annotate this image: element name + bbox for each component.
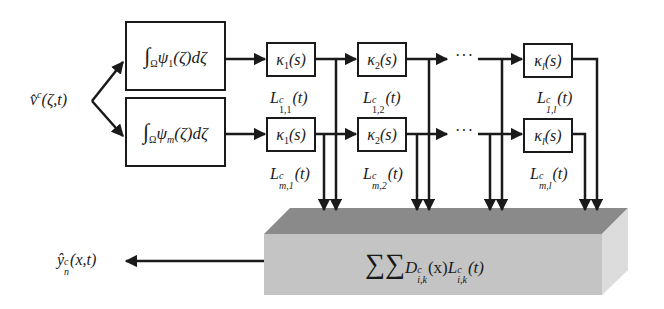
signal-label-Lm2: Lcm,2(t) (363, 166, 403, 191)
kappa-box-row2-l: κl(s) (523, 118, 573, 153)
kappa-box-row1-2: κ2(s) (357, 42, 407, 77)
fork-arrow-lower (92, 101, 123, 136)
fork-arrow-upper (92, 62, 123, 101)
signal-label-Lm1: Lcm,1(t) (270, 166, 310, 191)
input-signal-label: v̂c(ζ,t) (30, 92, 67, 108)
kappa-box-row2-1: κ1(s) (266, 117, 316, 152)
output-signal-label: ŷcn(x,t) (57, 252, 96, 277)
signal-label-L11: Lc1,1(t) (270, 90, 308, 115)
kappa-box-row2-2: κ2(s) (357, 117, 407, 152)
summation-formula: ∑∑ Dci,k(x) Lci,k(t) (365, 250, 484, 285)
signal-label-L1l: Lc1,l(t) (537, 90, 572, 115)
integrator-box-1: ∫Ω ψ1(ζ)dζ (125, 21, 226, 91)
ellipsis-row2: ··· (455, 122, 474, 140)
kappa-box-row1-l: κl(s) (523, 43, 573, 78)
kappa-box-row1-1: κ1(s) (266, 42, 316, 77)
double-sum-sign: ∑∑ (365, 250, 405, 278)
integrator-box-m: ∫Ω ψm(ζ)dζ (125, 97, 226, 167)
ellipsis-row1: ··· (455, 47, 474, 65)
signal-label-L12: Lc1,2(t) (363, 90, 401, 115)
block-top-face (264, 208, 628, 234)
signal-label-Lml: Lcm,l(t) (530, 166, 568, 191)
